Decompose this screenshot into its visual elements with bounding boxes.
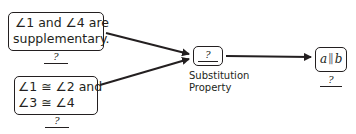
statement-2-line1: ∠1 ≅ ∠2 and xyxy=(18,79,102,94)
statement-1-reason-blank xyxy=(44,63,68,64)
conclusion-reason-blank xyxy=(320,86,342,87)
statement-2-reason[interactable]: ? xyxy=(45,116,69,126)
statement-1-line1: ∠1 and ∠4 are xyxy=(15,15,109,30)
arrow-statement2-to-middle xyxy=(100,59,189,85)
statement-1-line2: supplementary. xyxy=(13,31,110,46)
conclusion-var-b: b xyxy=(335,52,343,66)
statement-2-line2: ∠3 ≅ ∠4 xyxy=(18,95,75,110)
middle-statement-blank xyxy=(198,61,218,62)
conclusion-var-a: a xyxy=(320,52,327,66)
conclusion-statement: a∥b xyxy=(320,52,342,67)
middle-reason-line1: Substitution xyxy=(189,70,249,82)
middle-statement-value[interactable]: ? xyxy=(198,50,218,60)
conclusion-reason[interactable]: ? xyxy=(320,75,342,85)
statement-2-reason-blank xyxy=(45,127,69,128)
statement-1-reason[interactable]: ? xyxy=(44,52,68,62)
arrow-middle-to-conclusion xyxy=(226,56,311,57)
parallel-symbol: ∥ xyxy=(328,52,334,66)
arrow-statement1-to-middle xyxy=(106,33,189,54)
middle-reason-line2: Property xyxy=(189,82,231,94)
